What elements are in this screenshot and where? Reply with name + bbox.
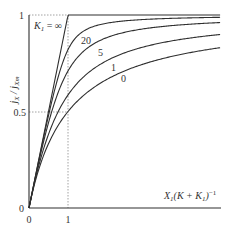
curve-label-0: 0 bbox=[121, 73, 126, 84]
curve-5 bbox=[29, 23, 220, 208]
curve-0 bbox=[29, 48, 220, 208]
curve-label-k-inf: K1 = ∞ bbox=[33, 20, 62, 33]
y-tick-0: 0 bbox=[19, 203, 24, 214]
y-tick-1: 1 bbox=[19, 10, 24, 21]
curves bbox=[29, 15, 220, 208]
x-tick-0: 0 bbox=[27, 214, 32, 225]
curve-label-1: 1 bbox=[111, 62, 116, 73]
y-axis-label: jX / jXm bbox=[8, 77, 21, 106]
curve-1 bbox=[29, 34, 220, 208]
curve-label-5: 5 bbox=[98, 47, 103, 58]
x-tick-1: 1 bbox=[66, 214, 71, 225]
curve-label-20: 20 bbox=[81, 35, 91, 46]
y-tick-half: 0.5 bbox=[14, 107, 27, 118]
x-axis-label: X1(K + K1)−1 bbox=[163, 189, 217, 203]
chart: 1 0.5 0 0 1 jX / jXm X1(K + K1)−1 K1 = ∞… bbox=[0, 0, 232, 232]
